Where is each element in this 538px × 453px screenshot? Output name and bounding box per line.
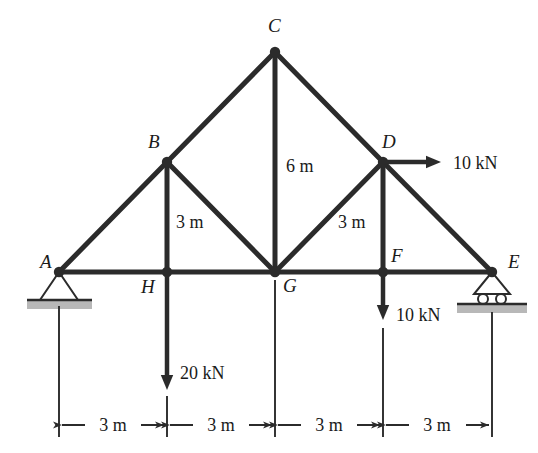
- joint-dot-A: [54, 267, 64, 277]
- load-arrow-head: [377, 305, 389, 320]
- member-AB: [59, 162, 167, 272]
- node-label-F: F: [390, 245, 403, 266]
- dimension-chain-layer: 3 m3 m3 m3 m: [59, 280, 492, 437]
- node-label-G: G: [283, 275, 297, 296]
- ground-hatch: [457, 304, 527, 313]
- dimension-label-3: 3 m: [315, 415, 343, 435]
- load-H-20kN: 20 kN: [161, 272, 225, 390]
- roller-wheel-2: [496, 294, 506, 304]
- supports-layer: [27, 272, 527, 313]
- height-BH: 3 m: [176, 212, 204, 232]
- node-label-H: H: [140, 276, 156, 297]
- roller-wheel-1: [478, 294, 488, 304]
- joint-dot-G: [270, 267, 280, 277]
- node-label-E: E: [507, 251, 520, 272]
- load-D-10kN: 10 kN: [383, 153, 498, 173]
- height-DF: 3 m: [338, 212, 366, 232]
- load-arrow-head: [161, 375, 173, 390]
- dimension-segment-2: 3 m: [170, 415, 272, 435]
- height-CG: 6 m: [286, 156, 314, 176]
- load-arrow-head: [426, 156, 441, 168]
- joint-dot-C: [270, 47, 280, 57]
- member-DG: [275, 162, 383, 272]
- node-label-C: C: [268, 15, 281, 36]
- truss-diagram-canvas: 20 kN10 kN10 kN 3 m3 m3 m3 m 3 m6 m3 mAB…: [0, 0, 538, 453]
- dimension-segment-4: 3 m: [386, 415, 489, 435]
- truss-figure: 20 kN10 kN10 kN 3 m3 m3 m3 m 3 m6 m3 mAB…: [0, 0, 538, 453]
- load-F-10kN: 10 kN: [377, 272, 441, 325]
- load-label-20kN: 20 kN: [180, 363, 225, 383]
- node-label-A: A: [38, 251, 52, 272]
- node-label-D: D: [381, 131, 396, 152]
- dimension-label-2: 3 m: [207, 415, 235, 435]
- roller-support-E: [457, 272, 527, 313]
- member-BC: [167, 52, 275, 162]
- dimension-label-4: 3 m: [423, 415, 451, 435]
- dimension-segment-3: 3 m: [278, 415, 380, 435]
- dimension-segment-1: 3 m: [62, 415, 164, 435]
- node-label-B: B: [148, 131, 160, 152]
- joint-dot-E: [487, 267, 497, 277]
- member-CD: [275, 52, 383, 162]
- pin-support-A: [27, 272, 92, 309]
- joint-dot-B: [162, 157, 172, 167]
- load-label-10kN: 10 kN: [453, 153, 498, 173]
- dimension-label-1: 3 m: [99, 415, 127, 435]
- load-label-10kN: 10 kN: [396, 305, 441, 325]
